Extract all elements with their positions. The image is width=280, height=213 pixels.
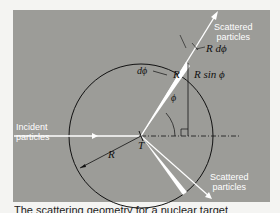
- scattered-wedge-bottom: [141, 136, 187, 195]
- radius-r-label: R: [108, 148, 115, 160]
- scattered-label-top: Scatteredparticles: [214, 22, 253, 42]
- scattered-label-bottom: Scatteredparticles: [210, 172, 249, 192]
- incident-label: Incidentparticles: [16, 122, 50, 142]
- arrow-head-top: [211, 11, 218, 20]
- figure-caption: The scattering geometry for a nuclear ta…: [14, 204, 228, 213]
- target-t-label: T: [138, 139, 144, 151]
- r-sin-phi-label: R sin ϕ: [194, 68, 225, 80]
- r-ray-label: R: [173, 68, 180, 80]
- phi-label: ϕ: [171, 92, 176, 103]
- dphi-label: dϕ: [137, 65, 147, 76]
- r-dphi-label: R dϕ: [206, 42, 227, 54]
